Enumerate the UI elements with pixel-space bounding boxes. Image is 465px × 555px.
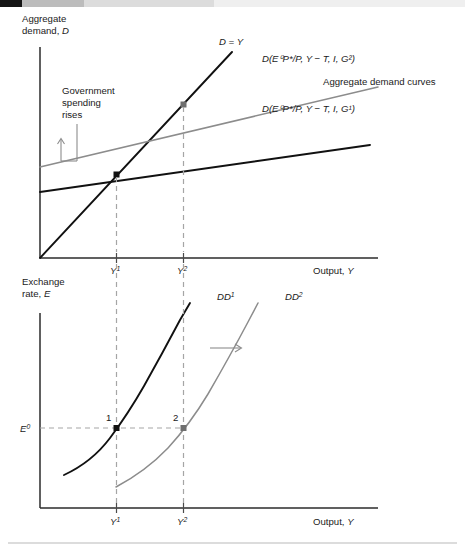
bottom-point-2-marker [181,425,187,431]
bottom-y-axis-label-line2: rate, E [22,288,51,299]
bottom-panel: Exchange rate, E DD1 DD2 [20,264,378,527]
bottom-y-axis-label-line1: Exchange [22,276,65,287]
bottom-point-1-marker [114,425,120,431]
top-y-axis-label-line2: demand, D [22,25,69,36]
dd1-curve-label: DD1 [217,291,235,303]
gov-spending-annotation-line1: Government [62,85,115,96]
bottom-xtick-label-y1: Y1 [110,516,120,528]
curve-label-g1: D(E⁰P*/P, Y − T, I, G¹) [262,103,355,114]
aggregate-demand-curves-group-label: Aggregate demand curves [323,76,436,87]
gov-spending-annotation-line2: spending [62,97,101,108]
bottom-point-2-label: 2 [173,412,178,423]
bottom-xtick-label-y2: Y2 [177,516,187,528]
bottom-x-axis-label: Output, Y [313,516,354,527]
bottom-point-1-label: 1 [106,412,111,423]
dd2-curve [116,303,258,487]
curve-label-g2: D(E⁰P*/P, Y − T, I, G²) [262,53,355,64]
top-x-axis-label: Output, Y [313,265,354,276]
top-xtick-label-y1: Y1 [110,265,120,277]
dd1-curve [64,303,190,475]
economics-figure: Aggregate demand, D D(E⁰P*/P, Y − T, I, … [0,0,465,555]
top-y-axis-label-line1: Aggregate [22,13,66,24]
identity-line-d-equals-y [40,52,232,258]
top-equilibrium-point-1 [114,172,120,178]
top-equilibrium-point-2 [181,102,187,108]
identity-line-label: D = Y [219,36,244,47]
gov-spending-annotation-line3: rises [62,109,82,120]
dd2-curve-label: DD2 [285,291,303,303]
figure-root: Aggregate demand, D D(E⁰P*/P, Y − T, I, … [0,0,465,555]
bottom-ytick-label-e0: E0 [20,423,30,435]
top-xtick-label-y2: Y2 [177,265,187,277]
aggregate-demand-curve-g1 [40,145,370,192]
scan-header-bar [0,0,465,7]
top-panel: Aggregate demand, D D(E⁰P*/P, Y − T, I, … [22,13,436,276]
